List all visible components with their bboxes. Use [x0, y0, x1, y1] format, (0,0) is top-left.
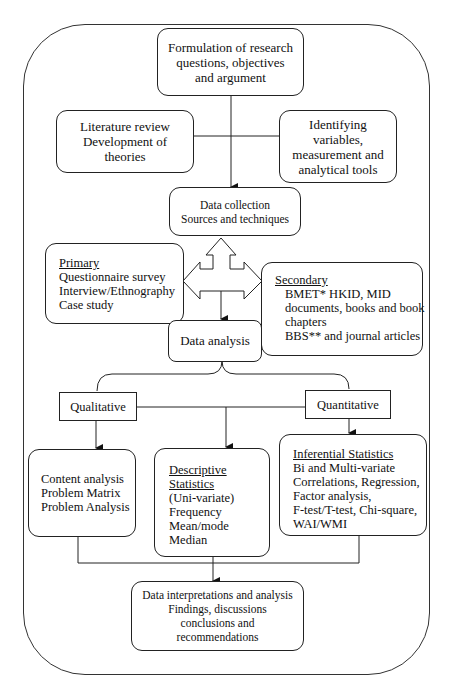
node-text: Bi and Multi-variate: [293, 461, 426, 475]
node-text: Median: [169, 533, 269, 547]
node-text: Mean/mode: [169, 519, 269, 533]
node-heading: Descriptive: [169, 463, 269, 477]
node-secondary-sources: Secondary BMET* HKID, MID documents, boo…: [261, 262, 423, 356]
node-text: chapters: [275, 315, 422, 329]
brace-analysis-split: [97, 361, 349, 391]
node-text: and argument: [195, 70, 266, 85]
node-text: Qualitative: [70, 400, 126, 414]
node-heading: Secondary: [275, 273, 422, 287]
node-text: questions, objectives: [176, 55, 284, 70]
node-text: Factor analysis,: [293, 489, 426, 503]
node-literature-review: Literature review Development of theorie…: [56, 110, 194, 173]
node-text: BMET* HKID, MID: [275, 287, 422, 301]
node-descriptive-statistics: Descriptive Statistics (Uni-variate) Fre…: [154, 448, 270, 557]
node-data-analysis: Data analysis: [168, 320, 262, 362]
node-text: conclusions and: [181, 616, 255, 630]
node-text: Findings, discussions: [168, 602, 266, 616]
node-text: documents, books and book: [275, 301, 422, 315]
node-heading: Statistics: [169, 477, 269, 491]
node-text: Formulation of research: [168, 40, 293, 55]
node-text: theories: [104, 149, 145, 164]
research-methodology-flowchart: Formulation of research questions, objec…: [0, 0, 449, 694]
node-text: Questionnaire survey: [59, 270, 183, 284]
node-text: Problem Matrix: [41, 486, 135, 500]
node-heading: Primary: [59, 256, 183, 270]
node-text: Data interpretations and analysis: [142, 588, 292, 602]
node-text: Data collection: [200, 198, 270, 212]
node-text: variables,: [313, 132, 363, 147]
node-text: Quantitative: [317, 398, 379, 412]
node-data-collection: Data collection Sources and techniques: [169, 187, 301, 236]
node-text: analytical tools: [298, 162, 377, 177]
node-text: Identifying: [309, 117, 367, 132]
node-text: (Uni-variate): [169, 491, 269, 505]
node-inferential-statistics: Inferential Statistics Bi and Multi-vari…: [279, 434, 427, 536]
node-text: recommendations: [177, 630, 259, 644]
node-quantitative: Quantitative: [305, 390, 391, 419]
node-text: BBS** and journal articles: [275, 329, 422, 343]
node-text: Sources and techniques: [181, 212, 289, 226]
node-qualitative: Qualitative: [59, 392, 137, 421]
node-text: Content analysis: [41, 472, 135, 486]
node-text: Development of: [83, 134, 167, 149]
node-identifying-variables: Identifying variables, measurement and a…: [279, 110, 397, 183]
node-content-analysis: Content analysis Problem Matrix Problem …: [28, 449, 136, 537]
node-primary-sources: Primary Questionnaire survey Interview/E…: [45, 243, 184, 324]
node-text: F-test/T-test, Chi-square,: [293, 503, 426, 517]
node-text: Frequency: [169, 505, 269, 519]
node-text: Data analysis: [180, 334, 250, 348]
node-text: WAI/WMI: [293, 517, 426, 531]
node-text: Interview/Ethnography: [59, 284, 183, 298]
node-interpretations-findings: Data interpretations and analysis Findin…: [131, 581, 304, 651]
node-text: Correlations, Regression,: [293, 475, 426, 489]
node-formulation: Formulation of research questions, objec…: [157, 28, 304, 96]
node-text: measurement and: [292, 147, 383, 162]
node-text: Case study: [59, 298, 183, 312]
node-text: Literature review: [80, 119, 170, 134]
block-arrow-shape: [183, 238, 262, 299]
node-text: Problem Analysis: [41, 500, 135, 514]
node-heading: Inferential Statistics: [293, 447, 426, 461]
